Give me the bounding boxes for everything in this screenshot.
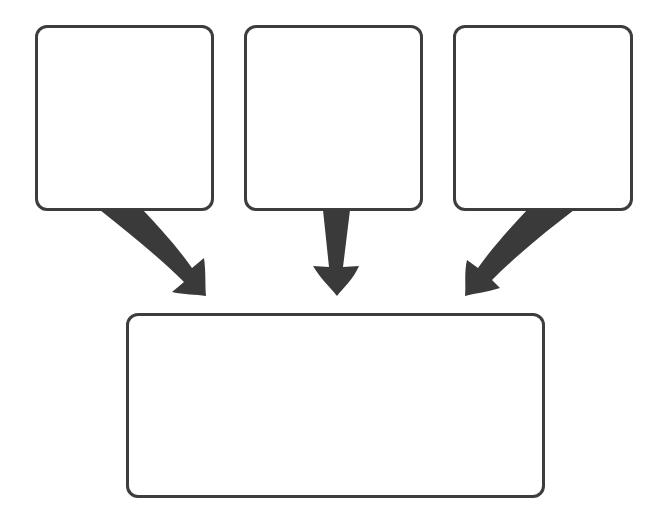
arrow-down-icon (313, 210, 359, 296)
arrow-down-left-icon (465, 210, 574, 296)
arrows-layer (0, 0, 656, 525)
arrow-down-right-icon (100, 210, 206, 296)
